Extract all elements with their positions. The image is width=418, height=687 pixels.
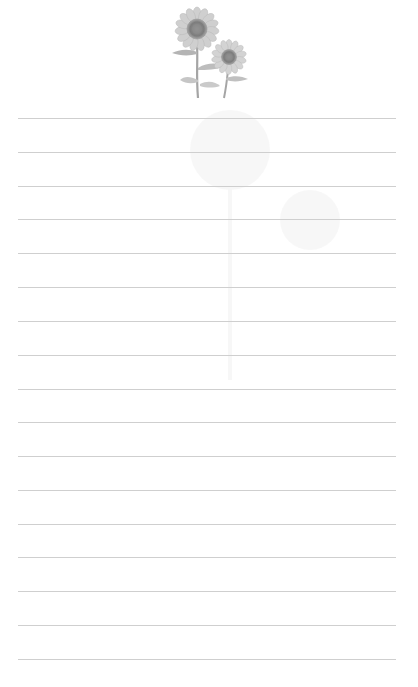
ruled-line: [18, 118, 396, 119]
ruled-line: [18, 625, 396, 626]
ruled-line: [18, 524, 396, 525]
ruled-line: [18, 152, 396, 153]
ruled-line: [18, 287, 396, 288]
ruled-line: [18, 389, 396, 390]
ruled-line: [18, 321, 396, 322]
sunflower-illustration-icon: [160, 0, 260, 100]
ruled-line: [18, 557, 396, 558]
ruled-line: [18, 659, 396, 660]
ruled-line: [18, 591, 396, 592]
faint-sunflower-watermark-icon: [150, 90, 380, 410]
ruled-line: [18, 355, 396, 356]
ruled-line: [18, 186, 396, 187]
ruled-line: [18, 490, 396, 491]
lined-paper: [0, 0, 418, 687]
ruled-line: [18, 253, 396, 254]
ruled-line: [18, 422, 396, 423]
ruled-line: [18, 456, 396, 457]
ruled-line: [18, 219, 396, 220]
